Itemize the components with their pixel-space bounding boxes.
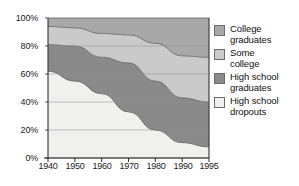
x-tick-label-1960: 1960 [89, 161, 115, 171]
legend-label-college-graduates: Collegegraduates [230, 24, 271, 45]
stacked-area-chart: 100% 80% 60% 40% 20% 0% 1940 1950 1960 1… [0, 0, 299, 186]
legend-label-some-college: Somecollege [230, 48, 259, 69]
legend-swatch-high-school-dropouts [214, 97, 225, 108]
legend-item-high-school-dropouts[interactable]: High schooldropouts [214, 96, 299, 117]
x-tick-label-1940: 1940 [35, 161, 61, 171]
legend-item-some-college[interactable]: Somecollege [214, 48, 299, 69]
legend-item-high-school-graduates[interactable]: High schoolgraduates [214, 72, 299, 93]
legend-swatch-college-graduates [214, 25, 225, 36]
x-tick-label-1970: 1970 [116, 161, 142, 171]
x-tick-label-1950: 1950 [62, 161, 88, 171]
legend-swatch-some-college [214, 49, 225, 60]
legend-label-high-school-graduates: High schoolgraduates [230, 72, 279, 93]
legend-label-high-school-dropouts: High schooldropouts [230, 96, 279, 117]
x-tick-label-1980: 1980 [143, 161, 169, 171]
legend-swatch-high-school-graduates [214, 73, 225, 84]
chart-legend: Collegegraduates Somecollege High school… [214, 24, 299, 120]
x-tick-label-1990: 1990 [170, 161, 196, 171]
legend-item-college-graduates[interactable]: Collegegraduates [214, 24, 299, 45]
x-tick-label-1995: 1995 [196, 161, 222, 171]
